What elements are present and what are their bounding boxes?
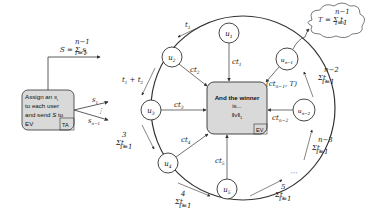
node-un1: un−1	[276, 48, 298, 70]
ev-tag: EV	[256, 127, 264, 133]
svg-text:t1: t1	[185, 21, 191, 30]
svg-text:i=1: i=1	[279, 195, 292, 203]
svg-text:ct2: ct2	[190, 66, 200, 75]
svg-text:(ctn−1, T): (ctn−1, T)	[266, 80, 297, 89]
protocol-diagram: Assign an si to each user and send S to …	[0, 0, 388, 216]
node-u3: u3	[141, 100, 161, 120]
svg-text:t1 + t2: t1 + t2	[122, 76, 144, 85]
svg-text:s1: s1	[92, 96, 98, 105]
s-arrow	[48, 57, 100, 90]
svg-text:ct5: ct5	[215, 157, 225, 166]
ev-line-2: is...	[232, 102, 242, 109]
node-u4: u4	[158, 153, 178, 173]
svg-text:3: 3	[122, 131, 127, 139]
svg-text:i=1: i=1	[322, 78, 335, 86]
svg-text:4: 4	[180, 190, 185, 198]
svg-text:n−1: n−1	[335, 8, 350, 16]
svg-text:n−2: n−2	[324, 66, 339, 74]
svg-text:i=1: i=1	[335, 19, 348, 27]
node-u1: u1	[219, 23, 239, 43]
svg-text:5: 5	[281, 183, 286, 191]
svg-text:i=1: i=1	[179, 202, 192, 210]
svg-text:ct3: ct3	[174, 101, 184, 110]
ta-line-4: EV	[25, 120, 34, 127]
svg-text:i=1: i=1	[75, 49, 88, 57]
ev-line-1: And the winner	[215, 94, 260, 101]
svg-text:ctn−2: ctn−2	[272, 114, 288, 123]
node-un2: un−2	[293, 99, 315, 121]
svg-text:⋯: ⋯	[290, 169, 297, 177]
node-u5: u5	[217, 179, 237, 199]
ta-box: Assign an si to each user and send S to …	[22, 90, 74, 130]
svg-text:n−3: n−3	[318, 136, 333, 144]
ta-tag: TA	[62, 122, 69, 128]
ta-line-3: and send S to	[25, 111, 64, 118]
ta-line-2: to each user	[25, 102, 59, 109]
svg-text:sn−1: sn−1	[88, 117, 100, 126]
cloud-t: T = Σ ti n−1 i=1	[308, 3, 365, 38]
ev-box: And the winner is... ‖v‖1 EV	[207, 82, 267, 134]
svg-text:i=1: i=1	[120, 143, 133, 151]
svg-text:ct1: ct1	[232, 58, 242, 67]
svg-text:ct4: ct4	[181, 136, 191, 145]
svg-text:n−1: n−1	[75, 38, 90, 46]
svg-text:⋮: ⋮	[97, 107, 104, 115]
svg-text:i=1: i=1	[316, 148, 329, 156]
